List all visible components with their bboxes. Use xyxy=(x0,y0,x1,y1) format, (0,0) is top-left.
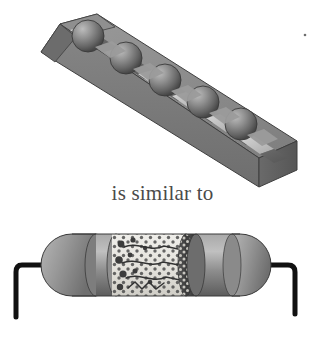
resistor-body xyxy=(41,234,271,296)
carbon-grain xyxy=(118,241,125,248)
carbon-grain xyxy=(130,237,135,242)
carbon-grain xyxy=(119,270,126,277)
resistor-panel xyxy=(0,222,325,343)
carbon-grain xyxy=(133,269,138,274)
corrugated-block-svg xyxy=(0,0,325,200)
stray-speck-icon xyxy=(304,34,307,37)
analogy-figure: is similar to xyxy=(0,0,325,343)
carbon-grain xyxy=(117,284,123,290)
resistor-right-cap-seam xyxy=(223,234,241,296)
carbon-grain xyxy=(128,253,133,258)
resistor-interior-detail xyxy=(112,234,188,296)
resistor-casing-cut-edge-right xyxy=(187,234,205,296)
analogy-caption: is similar to xyxy=(0,181,325,206)
resistor-svg xyxy=(0,222,325,343)
